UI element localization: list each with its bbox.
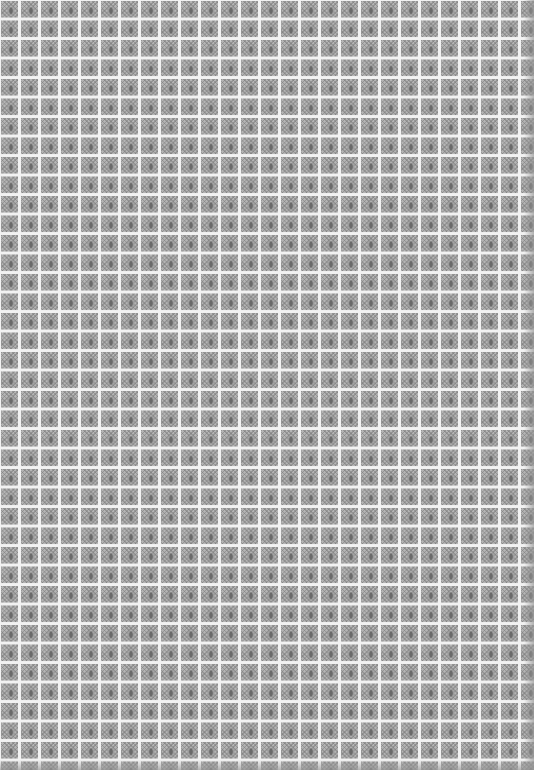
tile-pattern bbox=[0, 0, 534, 770]
patterned-sheet bbox=[0, 0, 534, 770]
bottom-edge-shadow bbox=[0, 760, 534, 770]
right-edge-shadow bbox=[524, 0, 534, 770]
